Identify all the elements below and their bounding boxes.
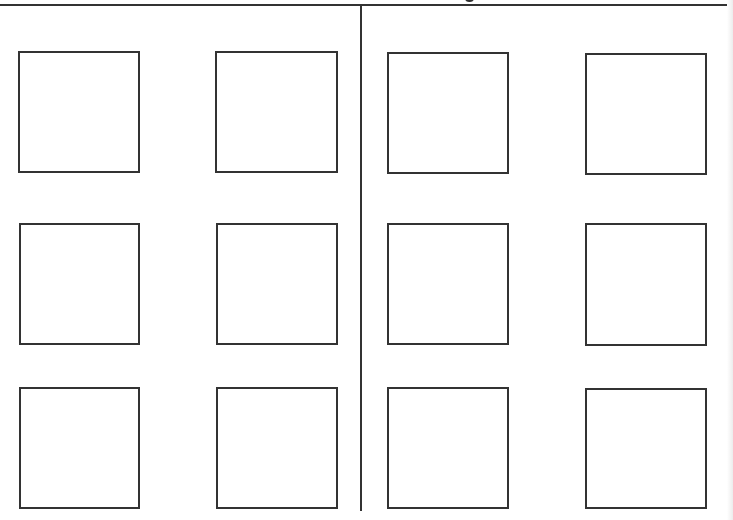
column-divider [360,5,362,511]
frame-right-r2-c2 [585,223,707,346]
frame-right-r3-c2 [585,388,707,509]
frame-left-r2-c1 [19,223,140,345]
frame-right-r1-c1 [387,52,509,174]
page-edge-shadow [727,0,733,520]
frame-left-r3-c1 [19,387,140,509]
document-page [0,0,733,520]
frame-right-r3-c1 [387,387,509,509]
clipped-header-glyph [465,0,474,2]
frame-left-r1-c2 [215,51,338,173]
frame-right-r2-c1 [387,223,509,345]
frame-right-r1-c2 [585,53,707,175]
frame-left-r2-c2 [216,223,338,345]
frame-left-r3-c2 [216,387,338,509]
frame-left-r1-c1 [18,51,140,173]
header-rule [0,4,727,6]
